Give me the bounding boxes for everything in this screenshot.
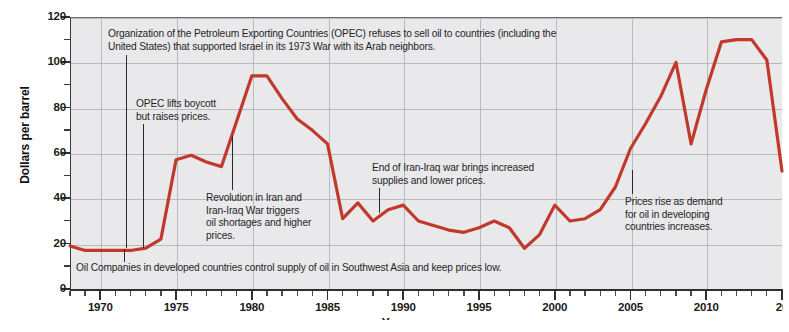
annotation-leader-opec-lifts-boycott (143, 124, 144, 248)
annotation-leader-iran-revolution (232, 136, 233, 190)
oil-price-chart: 020406080100120 Dollars per barrel 19701… (0, 0, 789, 332)
annotation-opec-lifts-boycott: OPEC lifts boycott but raises prices. (136, 98, 286, 123)
annotation-iran-revolution: Revolution in Iran and Iran-Iraq War tri… (206, 192, 336, 242)
annotation-prices-rise-demand: Prices rise as demand for oil in develop… (625, 196, 770, 234)
annotation-leader-end-iran-iraq-war (379, 188, 380, 213)
annotation-end-iran-iraq-war: End of Iran-Iraq war brings increased su… (372, 162, 582, 187)
annotation-oil-companies-control: Oil Companies in developed countries con… (76, 262, 506, 275)
annotation-opec-boycott-1973: Organization of the Petroleum Exporting … (108, 28, 578, 53)
annotation-leader-prices-rise-demand (632, 170, 633, 194)
annotation-leader-oil-companies-control (124, 249, 125, 262)
annotation-leader-opec-boycott-1973 (126, 55, 127, 248)
